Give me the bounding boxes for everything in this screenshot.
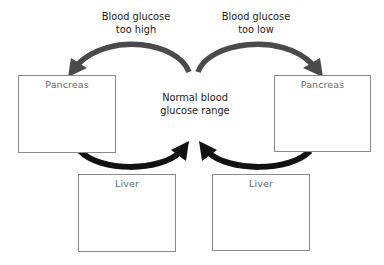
arrow-too-low-to-pancreas <box>198 44 323 77</box>
label-line: glucose range <box>145 105 245 118</box>
label-blood-glucose-too-high: Blood glucose too high <box>88 11 184 36</box>
box-title: Pancreas <box>19 79 115 90</box>
label-line: Normal blood <box>145 92 245 105</box>
label-line: Blood glucose <box>208 11 304 24</box>
pancreas-box-right[interactable]: Pancreas <box>274 75 371 152</box>
label-line: Blood glucose <box>88 11 184 24</box>
pancreas-box-left[interactable]: Pancreas <box>18 75 116 153</box>
label-line: too high <box>88 24 184 37</box>
glucose-regulation-diagram: Blood glucose too high Blood glucose too… <box>0 0 384 265</box>
arrow-too-high-to-pancreas <box>68 44 189 77</box>
label-blood-glucose-too-low: Blood glucose too low <box>208 11 304 36</box>
liver-box-left[interactable]: Liver <box>78 174 176 252</box>
box-title: Pancreas <box>275 79 370 90</box>
label-line: too low <box>208 24 304 37</box>
box-title: Liver <box>213 178 309 189</box>
liver-box-right[interactable]: Liver <box>212 174 310 251</box>
box-title: Liver <box>79 178 175 189</box>
label-normal-blood-glucose-range: Normal blood glucose range <box>145 92 245 117</box>
